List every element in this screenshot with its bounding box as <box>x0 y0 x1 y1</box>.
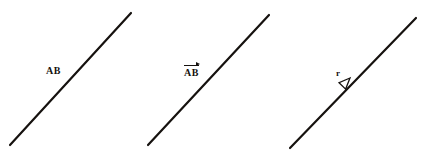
arrowhead-icon <box>339 75 353 89</box>
geometry-layer <box>0 0 425 163</box>
label-segment-ab: AB <box>46 66 61 76</box>
line-segment-ab <box>10 13 131 145</box>
vector-overline-arrow-icon: AB <box>184 68 199 78</box>
line-directed-r <box>290 18 416 148</box>
label-vector-ab: AB <box>184 68 199 78</box>
vector-arrowhead-icon <box>196 62 200 66</box>
label-directed-r: r <box>336 69 340 78</box>
line-vector-ab <box>148 15 269 145</box>
label-vector-ab-text: AB <box>184 68 199 78</box>
label-directed-r-text: r <box>336 68 340 78</box>
label-segment-ab-text: AB <box>46 65 61 76</box>
figure-canvas: AB AB r <box>0 0 425 163</box>
